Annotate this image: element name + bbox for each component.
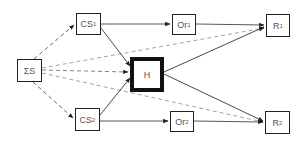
node-or2-sub: 2 — [185, 119, 188, 125]
edge-cs1-h — [101, 28, 130, 66]
node-or2: Or2 — [170, 111, 194, 132]
node-or1-sub: 1 — [187, 22, 190, 28]
node-or2-label: Or — [175, 117, 185, 127]
edge-cs2-h — [100, 78, 130, 115]
node-cs1-label: CS — [81, 19, 94, 29]
node-cs2-label: CS — [80, 115, 93, 125]
node-r2-sub: 2 — [279, 120, 282, 126]
node-r1-sub: 1 — [280, 23, 283, 29]
node-cs1: CS1 — [76, 13, 101, 35]
edge-or1-r1 — [196, 24, 264, 25]
node-h: H — [130, 57, 164, 92]
node-cs1-sub: 1 — [93, 21, 96, 27]
node-h-label: H — [144, 70, 151, 80]
node-or1-label: Or — [177, 20, 187, 30]
node-sigma-s: ΣS — [17, 59, 42, 82]
node-cs2-sub: 2 — [92, 117, 95, 123]
edge-or2-r2 — [194, 121, 263, 122]
edge-ss-cs1 — [34, 25, 74, 59]
node-cs2: CS2 — [75, 108, 100, 131]
node-r1: R1 — [266, 14, 290, 37]
node-or1: Or1 — [172, 14, 196, 35]
edge-ss-h — [42, 70, 128, 72]
edge-ss-cs2 — [33, 82, 73, 118]
node-r2: R2 — [265, 111, 290, 134]
node-sigma-s-label: ΣS — [24, 66, 36, 76]
